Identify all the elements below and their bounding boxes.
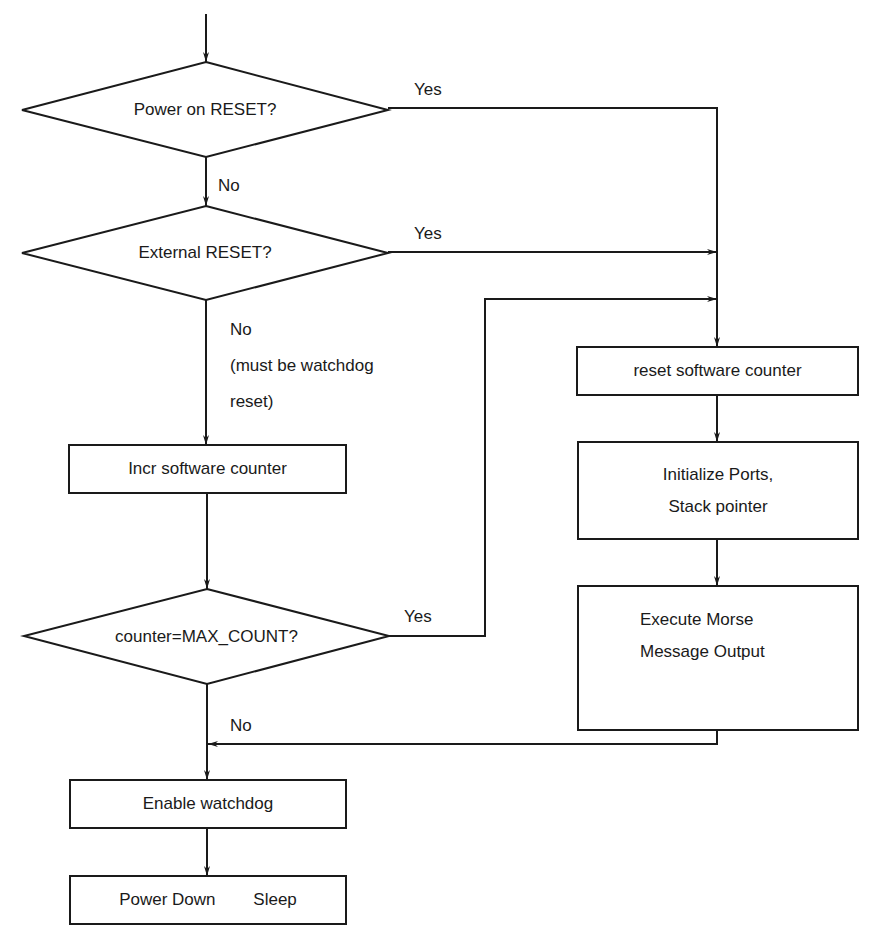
edge-label-max-yes: Yes: [404, 602, 432, 632]
edge-label-power-yes: Yes: [414, 75, 442, 105]
process-init-ports: Initialize Ports, Stack pointer: [578, 442, 858, 539]
decision-text: External RESET?: [138, 237, 271, 269]
decision-max-count: counter=MAX_COUNT?: [24, 589, 389, 684]
process-power-down: Power Down Sleep: [70, 876, 346, 924]
process-execute-morse: Execute Morse Message Output: [578, 586, 818, 686]
process-text-line: Execute Morse: [578, 604, 753, 636]
process-enable-watchdog: Enable watchdog: [70, 780, 346, 828]
edge-label-external-no-note: (must be watchdog: [230, 351, 374, 381]
process-text: reset software counter: [633, 355, 801, 387]
process-text-line: Initialize Ports,: [663, 459, 774, 491]
decision-power-on-reset: Power on RESET?: [22, 62, 388, 157]
decision-external-reset: External RESET?: [22, 206, 388, 300]
process-incr-counter: Incr software counter: [69, 445, 346, 493]
process-text-line: Stack pointer: [668, 491, 767, 523]
process-text: Power Down Sleep: [119, 884, 297, 916]
process-text-line: Message Output: [578, 636, 765, 668]
decision-text: Power on RESET?: [134, 94, 277, 126]
edge-label-external-no-note-2: reset): [230, 387, 273, 417]
edge-label-max-no: No: [230, 711, 252, 741]
process-text: Incr software counter: [128, 453, 287, 485]
edge-label-external-no: No: [230, 315, 252, 345]
edge-label-external-yes: Yes: [414, 219, 442, 249]
process-reset-counter: reset software counter: [577, 347, 858, 395]
edge-label-power-no: No: [218, 171, 240, 201]
decision-text: counter=MAX_COUNT?: [115, 621, 298, 653]
process-text: Enable watchdog: [143, 788, 273, 820]
